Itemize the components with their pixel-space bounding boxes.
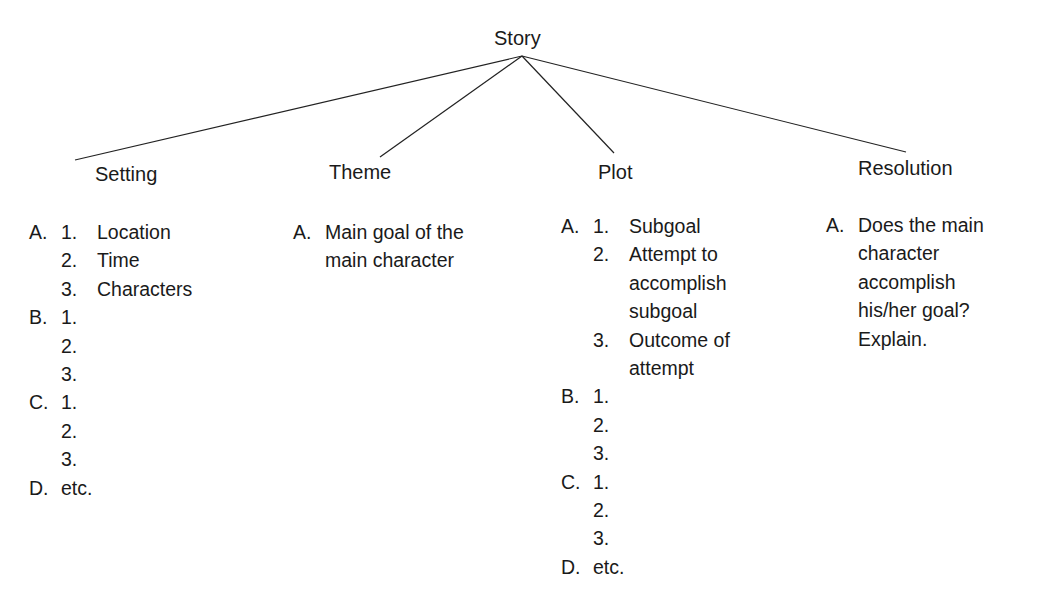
outline-text: subgoal — [629, 297, 697, 325]
connector-plot — [522, 56, 614, 153]
outline-text: accomplish — [858, 268, 956, 296]
branch-plot-label: Plot — [598, 160, 632, 184]
outline-text: Location — [97, 218, 171, 246]
outline-major: A. — [29, 218, 47, 246]
connector-setting — [75, 56, 522, 160]
outline-minor: 3. — [593, 439, 609, 467]
outline-minor: 3. — [593, 326, 609, 354]
outline-major: B. — [29, 303, 47, 331]
outline-major: D. — [29, 474, 49, 502]
connector-theme — [380, 56, 522, 157]
outline-minor: 2. — [593, 240, 609, 268]
outline-minor: 2. — [61, 246, 77, 274]
outline-minor: 1. — [593, 212, 609, 240]
outline-major: D. — [561, 553, 581, 581]
outline-minor: 3. — [61, 445, 77, 473]
outline-minor: 3. — [593, 524, 609, 552]
outline-text: attempt — [629, 354, 694, 382]
outline-minor: 2. — [593, 496, 609, 524]
outline-major: B. — [561, 382, 579, 410]
outline-minor: 3. — [61, 360, 77, 388]
outline-text: Time — [97, 246, 140, 274]
outline-text: Outcome of — [629, 326, 730, 354]
outline-text: accomplish — [629, 269, 727, 297]
outline-text: Attempt to — [629, 240, 718, 268]
root-node-story: Story — [494, 26, 541, 50]
outline-minor: 2. — [61, 417, 77, 445]
outline-minor: 1. — [593, 468, 609, 496]
connector-resolution — [522, 56, 906, 152]
outline-minor: 3. — [61, 275, 77, 303]
outline-minor: 1. — [61, 303, 77, 331]
outline-text: his/her goal? — [858, 296, 970, 324]
outline-major: C. — [29, 388, 49, 416]
outline-major: A. — [293, 218, 311, 246]
branch-theme-label: Theme — [329, 160, 391, 184]
outline-major: C. — [561, 468, 581, 496]
branch-setting-label: Setting — [95, 162, 157, 186]
outline-text: character — [858, 239, 939, 267]
branch-resolution-label: Resolution — [858, 156, 953, 180]
outline-major: A. — [826, 211, 844, 239]
outline-minor: 1. — [593, 382, 609, 410]
outline-text: Subgoal — [629, 212, 701, 240]
outline-text: etc. — [593, 553, 624, 581]
outline-text: Main goal of the — [325, 218, 464, 246]
outline-minor: 1. — [61, 388, 77, 416]
outline-minor: 2. — [61, 332, 77, 360]
outline-text: etc. — [61, 474, 92, 502]
outline-minor: 2. — [593, 411, 609, 439]
outline-text: Explain. — [858, 325, 927, 353]
outline-text: Does the main — [858, 211, 984, 239]
outline-text: main character — [325, 246, 454, 274]
outline-text: Characters — [97, 275, 192, 303]
outline-major: A. — [561, 212, 579, 240]
outline-minor: 1. — [61, 218, 77, 246]
